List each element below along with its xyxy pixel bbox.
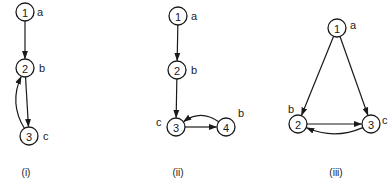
node-2: 2b xyxy=(16,59,45,77)
node-tag: a xyxy=(191,10,198,22)
node-number: 4 xyxy=(223,122,229,134)
node-3: 3c xyxy=(156,116,185,136)
edge-3-to-2 xyxy=(16,77,25,129)
edge-4-to-3 xyxy=(184,115,219,121)
edge-2-to-3 xyxy=(176,79,177,118)
node-tag: c xyxy=(43,130,49,142)
diagram-caption: (i) xyxy=(22,167,31,178)
diagram-caption: (ii) xyxy=(172,167,183,178)
node-number: 2 xyxy=(174,65,180,77)
node-number: 3 xyxy=(26,131,32,143)
node-number: 1 xyxy=(334,23,340,35)
node-1: 1a xyxy=(169,7,198,25)
edge-3-to-2 xyxy=(307,128,363,134)
edge-1-to-3 xyxy=(340,36,368,115)
graph-figure: 1a2b3c1a2b3c4b1a2b3c (i)(ii)(iii) xyxy=(0,0,391,185)
node-number: 1 xyxy=(22,7,28,19)
node-tag: a xyxy=(37,6,44,18)
diagram-caption: (iii) xyxy=(329,167,342,178)
node-number: 3 xyxy=(173,122,179,134)
node-number: 1 xyxy=(175,11,181,23)
node-number: 2 xyxy=(22,63,28,75)
node-number: 3 xyxy=(368,119,374,131)
edge-1-to-2 xyxy=(302,36,334,115)
node-tag: c xyxy=(382,114,388,126)
node-3: 3c xyxy=(20,127,49,145)
node-tag: b xyxy=(191,64,197,76)
edge-2-to-3 xyxy=(26,77,29,127)
node-4: 4b xyxy=(217,107,244,136)
node-tag: b xyxy=(288,103,294,115)
node-tag: c xyxy=(156,116,162,128)
node-2: 2b xyxy=(168,61,197,79)
node-tag: b xyxy=(238,107,244,119)
node-3: 3c xyxy=(362,114,388,133)
node-1: 1a xyxy=(16,3,44,21)
node-tag: b xyxy=(39,62,45,74)
node-tag: a xyxy=(350,19,357,31)
node-1: 1a xyxy=(328,19,357,37)
edge-1-to-2 xyxy=(177,25,178,61)
node-number: 2 xyxy=(295,119,301,131)
